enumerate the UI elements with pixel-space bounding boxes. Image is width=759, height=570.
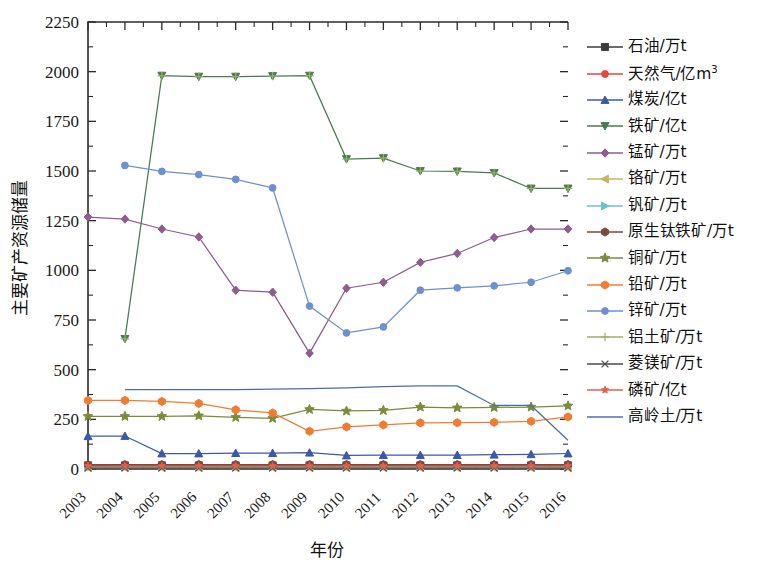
- y-tick-label: 500: [54, 361, 80, 380]
- series-bauxite-markers: [121, 71, 572, 343]
- x-tick-label: 2010: [315, 489, 348, 522]
- y-tick-label: 1750: [45, 112, 79, 131]
- legend-marker-icon: [586, 170, 624, 188]
- legend-label: 石油/万t: [628, 39, 686, 55]
- legend-marker-icon: [586, 197, 624, 215]
- legend-item[interactable]: 石油/万t: [586, 34, 758, 60]
- x-axis-title: 年份: [310, 540, 344, 560]
- y-tick-label: 250: [54, 410, 80, 429]
- legend-item[interactable]: 原生钛铁矿/万t: [586, 219, 758, 245]
- legend-label: 铝土矿/万t: [628, 330, 702, 346]
- series-8: [83, 401, 573, 423]
- legend-label: 锌矿/万t: [628, 303, 686, 319]
- y-tick-label: 0: [71, 460, 80, 479]
- legend-item[interactable]: 天然气/亿m3: [586, 60, 758, 86]
- series-2: [84, 432, 572, 459]
- legend-item[interactable]: 铬矿/万t: [586, 166, 758, 192]
- chart-legend: 石油/万t天然气/亿m3煤炭/亿t铁矿/亿t锰矿/万t铬矿/万t钒矿/万t原生钛…: [586, 34, 758, 430]
- series-3: [121, 72, 572, 343]
- legend-label: 煤炭/亿t: [628, 92, 686, 108]
- legend-marker-icon: [586, 249, 624, 267]
- x-tick-label: 2016: [536, 488, 569, 521]
- legend-marker-icon: [586, 328, 624, 346]
- y-tick-label: 1000: [45, 261, 79, 280]
- legend-label: 锰矿/万t: [628, 145, 686, 161]
- legend-marker-icon: [586, 408, 624, 426]
- legend-marker-icon: [586, 38, 624, 56]
- legend-marker-icon: [586, 117, 624, 135]
- legend-item[interactable]: 钒矿/万t: [586, 192, 758, 218]
- legend-label: 磷矿/亿t: [628, 383, 686, 399]
- chart-root: 0250500750100012501500175020002250200320…: [0, 0, 759, 570]
- legend-item[interactable]: 高岭土/万t: [586, 403, 758, 429]
- legend-marker-icon: [586, 91, 624, 109]
- x-tick-label: 2011: [352, 489, 384, 521]
- legend-label: 高岭土/万t: [628, 409, 702, 425]
- legend-label: 天然气/亿m3: [628, 65, 717, 83]
- x-tick-label: 2006: [167, 488, 200, 521]
- legend-item[interactable]: 铜矿/万t: [586, 245, 758, 271]
- legend-label: 菱镁矿/万t: [628, 356, 702, 372]
- y-tick-label: 1500: [45, 162, 79, 181]
- y-axis-title: 主要矿产资源储量: [10, 180, 30, 316]
- y-tick-label: 1250: [45, 212, 79, 231]
- legend-item[interactable]: 煤炭/亿t: [586, 87, 758, 113]
- x-tick-label: 2005: [130, 489, 163, 522]
- legend-item[interactable]: 铁矿/亿t: [586, 113, 758, 139]
- x-tick-label: 2007: [204, 488, 237, 521]
- y-tick-label: 750: [54, 311, 80, 330]
- legend-marker-icon: [586, 144, 624, 162]
- legend-label: 原生钛铁矿/万t: [628, 224, 734, 240]
- x-tick-label: 2008: [241, 489, 274, 522]
- legend-item[interactable]: 铝土矿/万t: [586, 324, 758, 350]
- x-tick-label: 2013: [426, 489, 459, 522]
- legend-label: 铜矿/万t: [628, 251, 686, 267]
- x-tick-label: 2009: [278, 489, 311, 522]
- legend-item[interactable]: 菱镁矿/万t: [586, 351, 758, 377]
- legend-marker-icon: [586, 355, 624, 373]
- legend-item[interactable]: 锰矿/万t: [586, 140, 758, 166]
- y-tick-label: 2250: [45, 13, 79, 32]
- legend-item[interactable]: 磷矿/亿t: [586, 377, 758, 403]
- legend-marker-icon: [586, 381, 624, 399]
- y-tick-label: 2000: [45, 63, 79, 82]
- x-tick-label: 2012: [389, 489, 422, 522]
- x-tick-label: 2014: [463, 488, 496, 521]
- legend-label: 铬矿/万t: [628, 171, 686, 187]
- legend-label: 钒矿/万t: [628, 198, 686, 214]
- legend-marker-icon: [586, 65, 624, 83]
- x-tick-label: 2004: [93, 488, 126, 521]
- legend-label: 铁矿/亿t: [628, 119, 686, 135]
- legend-item[interactable]: 铅矿/万t: [586, 272, 758, 298]
- legend-item[interactable]: 锌矿/万t: [586, 298, 758, 324]
- chart-series-layer: [83, 71, 573, 471]
- legend-marker-icon: [586, 302, 624, 320]
- legend-marker-icon: [586, 223, 624, 241]
- series-10: [122, 162, 572, 336]
- x-tick-label: 2015: [499, 489, 532, 522]
- legend-marker-icon: [586, 276, 624, 294]
- legend-label: 铅矿/万t: [628, 277, 686, 293]
- x-tick-label: 2003: [56, 489, 89, 522]
